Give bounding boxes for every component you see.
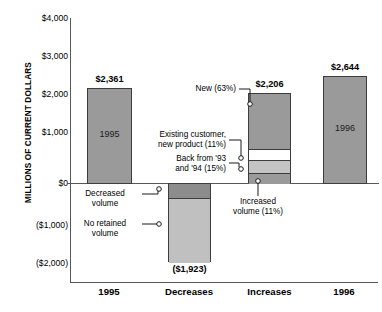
zero-tickmark [67,183,71,184]
bar-increases-value-label: $2,206 [239,79,300,89]
bar-increases [248,93,291,183]
callout-existing-line2: new product (11%) [133,140,226,150]
callout-back-line1: Back from '93 [145,154,226,164]
x-label-1996: 1996 [313,286,375,297]
x-label-increases: Increases [233,286,306,297]
plot-area: 1995 $2,361 ($1,923) $2,206 1996 $2,644 [70,18,378,283]
callout-noretained-line1: No retained [68,219,142,229]
callout-back-from-93-94: Back from '93 and '94 (15%) [145,154,226,173]
segment-decreased-volume [169,184,210,199]
bar-1995-inside-label: 1995 [88,129,131,139]
bar-1996-inside-label: 1996 [324,123,366,133]
callout-existing-line1: Existing customer, [133,130,226,140]
y-tick-4000: $4,000 [16,14,68,23]
x-label-1995: 1995 [78,286,140,297]
callout-no-retained-volume: No retained volume [68,219,142,238]
segment-no-retained-volume [169,199,210,263]
callout-increased-volume: Increased volume (11%) [218,197,298,216]
callout-decreased-line2: volume [68,199,142,209]
callout-new-line1: New (63%) [158,84,236,94]
callout-noretained-line2: volume [68,229,142,239]
callout-decreased-volume: Decreased volume [68,189,142,208]
callout-existing-customer: Existing customer, new product (11%) [133,130,226,149]
bar-1995-value-label: $2,361 [78,74,141,84]
segment-new [249,94,290,150]
x-label-decreases: Decreases [148,286,230,297]
waterfall-chart: MILLIONS OF CURRENT DOLLARS $4,000 $3,00… [0,0,382,312]
callout-increased-line2: volume (11%) [218,207,298,217]
bar-decreases-value-label: ($1,923) [159,264,220,274]
callout-back-line2: and '94 (15%) [145,164,226,174]
bar-1996: 1996 [323,76,367,184]
x-axis-labels: 1995 Decreases Increases 1996 [70,286,378,302]
segment-increased-volume [249,174,290,184]
y-tick-2000: $2,000 [16,90,68,99]
y-tick-neg2000: ($2,000) [16,259,68,268]
y-tick-1000: $1,000 [16,128,68,137]
y-axis-ticks: $4,000 $3,000 $2,000 $1,000 $0 ($1,000) … [14,0,68,312]
callout-decreased-line1: Decreased [68,189,142,199]
y-tick-neg1000: ($1,000) [16,221,68,230]
segment-existing-customer-new-product [249,150,290,161]
y-tick-3000: $3,000 [16,52,68,61]
y-tick-0: $0 [16,179,68,188]
bar-1995: 1995 [87,88,132,184]
callout-new: New (63%) [158,84,236,94]
segment-back-from-93-and-94 [249,161,290,174]
callout-increased-line1: Increased [218,197,298,207]
bar-1996-value-label: $2,644 [314,62,376,72]
bar-decreases [168,183,211,262]
